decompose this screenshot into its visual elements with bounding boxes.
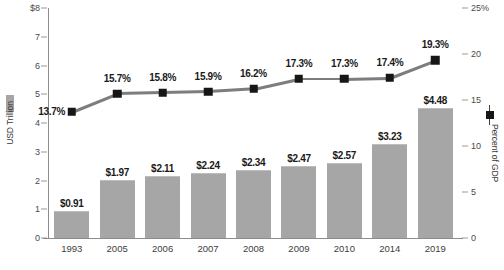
chart-container: USD Trillion Percent of GDP 01234567$8 0… [0,0,504,270]
y-axis-left-tick-mark [41,8,47,9]
y-axis-right-tick-mark [462,146,468,147]
y-axis-right-tick-label: 10 [471,141,504,151]
y-axis-right-tick-mark [462,54,468,55]
y-axis-left-tick-label: 2 [10,176,40,186]
x-axis-tick-label: 2008 [243,243,264,254]
y-axis-left-ticks: 01234567$8 [8,0,40,270]
y-axis-left-tick-mark [41,123,47,124]
y-axis-left-tick-label: 3 [10,147,40,157]
y-axis-right-tick-mark [462,100,468,101]
y-axis-left-tick-mark [41,151,47,152]
y-axis-left-tick-mark [41,36,47,37]
y-axis-right-tick-label: 5 [471,187,504,197]
y-axis-right-ticks: 0510152025% [471,0,504,270]
y-axis-right-tick-label: 20 [471,49,504,59]
y-axis-left-tick-mark [41,209,47,210]
x-axis-tick-label: 2019 [425,243,446,254]
x-axis-tick-label: 2007 [197,243,218,254]
y-axis-left-tick-label: 6 [10,61,40,71]
x-axis-ticks: 199320052006200720082009201020142019 [49,0,458,270]
y-axis-left-tick-mark [41,94,47,95]
y-axis-right-tick-mark [462,8,468,9]
y-axis-left-tick-mark [41,180,47,181]
x-axis-tick-label: 2009 [288,243,309,254]
x-axis-tick-label: 2010 [334,243,355,254]
y-axis-left-tick-label: 1 [10,204,40,214]
y-axis-left-tick-label: $8 [10,3,40,13]
x-axis-tick-label: 2014 [379,243,400,254]
x-axis-tick-label: 2006 [152,243,173,254]
y-axis-right-tick-label: 25% [471,3,504,13]
y-axis-left-tick-label: 4 [10,118,40,128]
y-axis-right-tick-mark [462,192,468,193]
y-axis-left-tick-label: 0 [10,233,40,243]
y-axis-right-tick-label: 15 [471,95,504,105]
x-axis-tick-label: 1993 [61,243,82,254]
y-axis-right-tick-marks [462,0,470,270]
x-axis-tick-label: 2005 [107,243,128,254]
y-axis-left-tick-mark [41,65,47,66]
y-axis-left-tick-label: 7 [10,32,40,42]
y-axis-right-tick-label: 0 [471,233,504,243]
y-axis-left-tick-label: 5 [10,89,40,99]
